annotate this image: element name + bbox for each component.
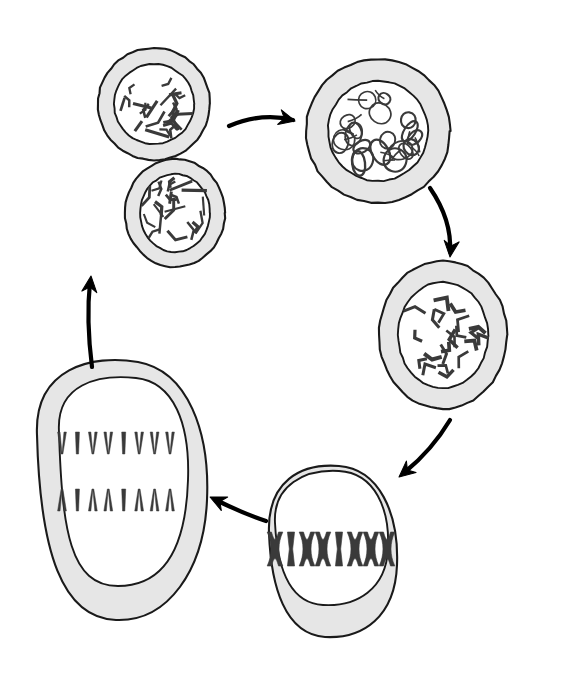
- anaphase-chromatid-rod: [75, 489, 79, 511]
- arrow-metaphase-to-anaphase: [207, 490, 266, 521]
- cell-prophase[interactable]: [306, 59, 451, 203]
- arrow-shaft: [88, 282, 92, 367]
- arrow-head: [207, 490, 228, 510]
- arrow-shaft: [405, 420, 450, 472]
- mitosis-diagram-canvas: [0, 0, 564, 674]
- arrow-anaphase-to-daughter: [82, 275, 99, 367]
- anaphase-chromatid-rod: [122, 489, 126, 511]
- cell-cycle-diagram: [0, 0, 564, 674]
- chromatin-thread: [182, 190, 207, 191]
- tangled-chromatin-thread: [348, 99, 368, 100]
- cell-prometaphase[interactable]: [379, 261, 507, 410]
- nuclear-envelope: [59, 377, 188, 586]
- cell-anaphase[interactable]: [37, 360, 207, 620]
- arrow-interphase-to-prophase: [229, 110, 297, 128]
- arrow-prophase-to-prometaphase: [430, 188, 459, 258]
- arrow-shaft: [216, 500, 266, 521]
- cell-daughter-cell[interactable]: [125, 159, 225, 268]
- cell-metaphase[interactable]: [267, 466, 397, 637]
- cell-interphase[interactable]: [98, 48, 210, 160]
- anaphase-chromatid-rod: [75, 432, 79, 454]
- anaphase-chromatid-rod: [122, 432, 126, 454]
- arrow-prometaphase-to-metaphase: [394, 420, 450, 483]
- chromatin-thread: [203, 197, 204, 216]
